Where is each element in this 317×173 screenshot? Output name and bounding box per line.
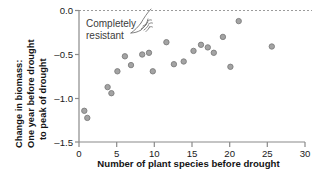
data-point: [105, 84, 110, 89]
data-point: [191, 48, 196, 53]
data-point: [211, 50, 216, 55]
data-point: [128, 62, 133, 67]
data-point: [228, 64, 233, 69]
data-point: [171, 61, 176, 66]
x-tick-label-0: 0: [76, 148, 81, 159]
data-point: [82, 108, 87, 113]
x-tick-label-6: 30: [300, 148, 311, 159]
data-point: [85, 115, 90, 120]
y-tick-label-2: –1.0: [54, 93, 73, 104]
x-tick-label-5: 25: [262, 148, 273, 159]
annotation-completely-resistant-line-1: Completely: [86, 18, 136, 29]
scatter-chart-figure: Change in biomass: One year before droug…: [0, 0, 317, 173]
plot-area: 0.0 –0.5 –1.0 –1.5 0 5 10 15 20 25 30 Co…: [0, 0, 317, 173]
data-point: [164, 40, 169, 45]
data-point: [181, 59, 186, 64]
x-axis-ticks: [79, 142, 305, 147]
data-point: [205, 45, 210, 50]
data-point: [269, 44, 274, 49]
y-tick-label-0: 0.0: [60, 5, 73, 16]
data-point: [109, 91, 114, 96]
data-point: [146, 50, 151, 55]
data-point: [140, 52, 145, 57]
x-tick-label-4: 20: [224, 148, 235, 159]
x-tick-label-2: 10: [149, 148, 160, 159]
data-point: [236, 18, 241, 23]
data-point: [150, 69, 155, 74]
data-point: [220, 34, 225, 39]
data-point: [115, 69, 120, 74]
y-tick-label-3: –1.5: [54, 137, 73, 148]
x-tick-label-3: 15: [187, 148, 198, 159]
y-tick-label-1: –0.5: [54, 49, 73, 60]
data-point: [198, 42, 203, 47]
x-tick-label-1: 5: [114, 148, 119, 159]
annotation-completely-resistant-line-2: resistant: [86, 30, 124, 41]
data-point: [122, 54, 127, 59]
